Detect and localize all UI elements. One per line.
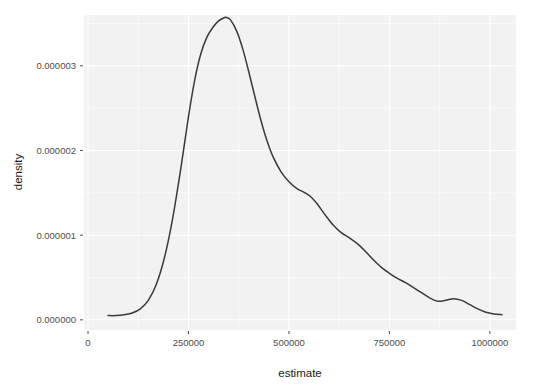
- plot-canvas: 02500005000007500001000000 0.0000000.000…: [0, 0, 542, 390]
- x-tick-label: 750000: [374, 337, 406, 348]
- y-tick-label: 0.000002: [36, 145, 76, 156]
- y-tick-label: 0.000003: [36, 60, 76, 71]
- y-tick-label: 0.000000: [36, 314, 76, 325]
- x-tick-label: 1000000: [471, 337, 508, 348]
- plot-panel-background: [84, 15, 516, 330]
- y-tick-label: 0.000001: [36, 230, 76, 241]
- x-tick-label: 0: [85, 337, 90, 348]
- y-axis-title: density: [12, 154, 24, 191]
- x-tick-label: 250000: [173, 337, 205, 348]
- density-plot-figure: 02500005000007500001000000 0.0000000.000…: [0, 0, 542, 390]
- x-axis-title: estimate: [278, 367, 321, 379]
- x-tick-label: 500000: [273, 337, 305, 348]
